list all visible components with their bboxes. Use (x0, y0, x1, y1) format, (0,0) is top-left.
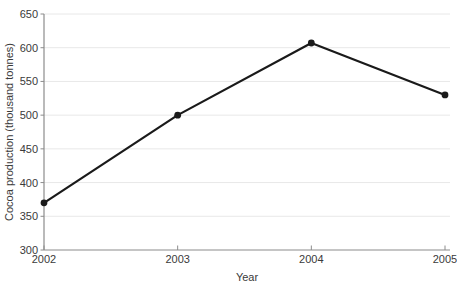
y-axis-title: Cocoa production (thousand tonnes) (3, 43, 15, 221)
x-axis-title: Year (236, 271, 259, 283)
x-tick-label: 2002 (32, 253, 56, 265)
data-point-marker (41, 199, 48, 206)
y-tick-label: 450 (20, 143, 38, 155)
y-tick-label: 350 (20, 210, 38, 222)
y-tick-label: 400 (20, 177, 38, 189)
y-tick-label: 550 (20, 75, 38, 87)
x-axis-ticks: 2002200320042005 (32, 246, 457, 266)
y-tick-label: 650 (20, 8, 38, 20)
cocoa-production-line-chart: 300350400450500550600650 200220032004200… (0, 0, 457, 290)
y-tick-label: 600 (20, 42, 38, 54)
x-tick-label: 2003 (165, 253, 189, 265)
y-axis-ticks: 300350400450500550600650 (20, 8, 44, 256)
x-tick-label: 2004 (299, 253, 323, 265)
series-line (44, 43, 445, 203)
cocoa-production-figure: 300350400450500550600650 200220032004200… (0, 0, 457, 290)
x-tick-label: 2005 (433, 253, 457, 265)
data-point-marker (442, 92, 449, 99)
y-tick-label: 500 (20, 109, 38, 121)
axes (44, 14, 450, 250)
data-point-marker (174, 112, 181, 119)
gridlines (44, 14, 450, 216)
data-series (41, 40, 449, 207)
data-point-marker (308, 40, 315, 47)
